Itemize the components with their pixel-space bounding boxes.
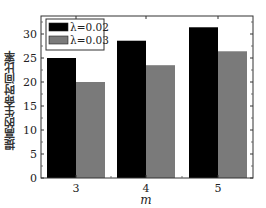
bar-3-series-1: λ=0.02, m=3: 25 [47, 58, 76, 178]
y-tick-label: 20 [23, 76, 37, 89]
x-tick-label: 5 [215, 182, 222, 195]
y-tick-label: 15 [23, 100, 37, 113]
bar-3-series-2: λ=0.03, m=3: 20 [76, 82, 105, 178]
y-tick-label: 30 [23, 28, 37, 41]
bar-chart: λ=0.02, m=3: 25λ=0.03, m=3: 20λ=0.02, m=… [0, 0, 266, 208]
bar-4-series-1: λ=0.02, m=4: 28.6 [117, 41, 146, 178]
legend: λ=0.02λ=0.03 [46, 19, 109, 50]
legend-label-2: λ=0.03 [70, 34, 109, 46]
y-tick-label: 0 [30, 172, 37, 185]
legend-swatch-1 [49, 23, 68, 31]
x-axis-label: m [140, 193, 151, 207]
y-tick-label: 25 [23, 52, 37, 65]
legend-swatch-2 [49, 36, 68, 44]
y-tick-label: 10 [23, 124, 37, 137]
legend-label-1: λ=0.02 [70, 21, 109, 33]
bar-5-series-1: λ=0.02, m=5: 31.4 [189, 27, 218, 178]
x-tick-label: 3 [73, 182, 80, 195]
bar-4-series-2: λ=0.03, m=4: 23.5 [146, 65, 175, 178]
bar-5-series-2: λ=0.03, m=5: 26.4 [218, 51, 247, 178]
y-tick-label: 5 [30, 148, 37, 161]
